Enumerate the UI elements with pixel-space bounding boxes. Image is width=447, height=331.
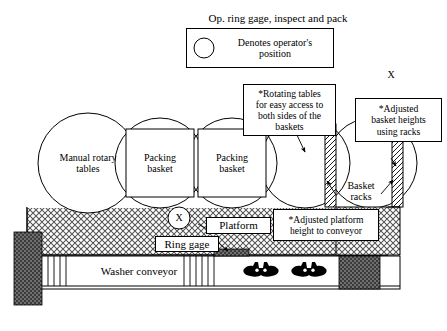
label-washer-conveyor: Washer conveyor	[74, 265, 204, 278]
label-basket-racks: Basket racks	[338, 180, 384, 203]
basket-rack-left	[325, 124, 336, 207]
station-label-manual-rotary-tables: Manual rotary tables	[44, 152, 132, 175]
support-block-right	[339, 256, 380, 289]
ring-gage-block	[214, 249, 249, 256]
operator-marker-letter: X	[169, 212, 189, 223]
legend-marker-letter: X	[378, 69, 404, 81]
callout-adjusted-platform-height-text: *Adjusted platform height to conveyor	[289, 214, 364, 236]
callout-rotating-tables-text: *Rotating tables for easy access to both…	[256, 88, 323, 132]
legend-text: Denotes operator's position	[217, 37, 333, 60]
station-label-packing-basket-1: Packing basket	[126, 152, 194, 175]
diagram-canvas: Op. ring gage, inspect and pack X Denote…	[0, 0, 447, 331]
label-ring-gage: Ring gage	[155, 236, 219, 252]
station-label-packing-basket-2: Packing basket	[198, 152, 266, 175]
label-ring-gage-text: Ring gage	[165, 238, 210, 251]
figure-title: Op. ring gage, inspect and pack	[188, 12, 368, 25]
basket-rack-right	[392, 140, 403, 207]
label-platform: Platform	[206, 217, 271, 234]
operator-legend-icon	[191, 35, 217, 61]
support-block-left	[14, 232, 42, 305]
callout-adjusted-platform-height: *Adjusted platform height to conveyor	[273, 209, 379, 241]
callout-adjusted-basket-heights: *Adjusted basket heights using racks	[355, 98, 442, 142]
callout-adjusted-basket-heights-text: *Adjusted basket heights using racks	[371, 103, 426, 136]
callout-rotating-tables: *Rotating tables for easy access to both…	[243, 84, 336, 136]
label-platform-text: Platform	[219, 219, 258, 232]
legend-box: X Denotes operator's position	[186, 28, 334, 68]
